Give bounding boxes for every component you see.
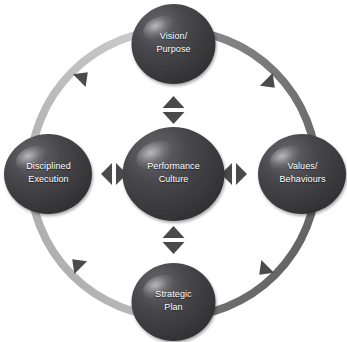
node-disciplined-execution[interactable] bbox=[4, 134, 92, 214]
diagram-graphics bbox=[0, 0, 347, 342]
node-vision-purpose[interactable] bbox=[132, 4, 216, 84]
node-strategic-plan[interactable] bbox=[132, 263, 216, 341]
diagram-canvas: Vision/ Purpose Values/ Behaviours Strat… bbox=[0, 0, 347, 342]
connector-center-top bbox=[163, 96, 185, 124]
connector-center-bottom bbox=[163, 226, 185, 254]
node-values-behaviours[interactable] bbox=[258, 134, 346, 214]
node-performance-culture[interactable] bbox=[123, 127, 225, 221]
connector-center-right bbox=[221, 163, 247, 185]
